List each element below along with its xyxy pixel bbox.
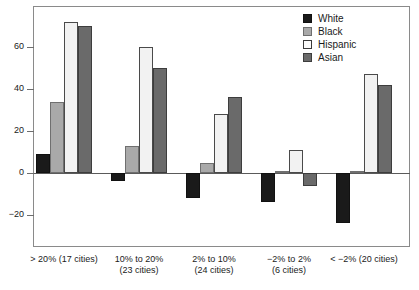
y-axis-tick-label: 60 bbox=[0, 42, 24, 51]
y-axis-tick-mark bbox=[27, 47, 34, 48]
y-axis-tick-mark bbox=[27, 173, 34, 174]
legend-item-label: Asian bbox=[318, 53, 343, 63]
legend-swatch-icon bbox=[303, 53, 312, 62]
bar bbox=[364, 74, 378, 173]
bar bbox=[378, 85, 392, 173]
legend-swatch-icon bbox=[303, 14, 312, 23]
category-label-line-2: (6 cities) bbox=[244, 265, 334, 276]
bar bbox=[36, 154, 50, 173]
bar bbox=[261, 173, 275, 202]
bar bbox=[111, 173, 125, 181]
bar bbox=[336, 173, 350, 223]
y-axis-tick-label: 20 bbox=[0, 126, 24, 135]
bar bbox=[303, 173, 317, 186]
y-axis-tick-mark bbox=[27, 215, 34, 216]
bar bbox=[139, 47, 153, 173]
legend-item: Black bbox=[303, 25, 356, 38]
zero-baseline bbox=[34, 173, 410, 174]
legend-item: Hispanic bbox=[303, 38, 356, 51]
bar bbox=[186, 173, 200, 198]
legend-item: White bbox=[303, 12, 356, 25]
bar bbox=[78, 26, 92, 173]
bar bbox=[350, 171, 364, 173]
y-axis-tick-mark bbox=[27, 89, 34, 90]
bar bbox=[228, 97, 242, 173]
category-label-line-1: < −2% (20 cities) bbox=[330, 254, 398, 264]
y-axis-tick-label: 40 bbox=[0, 84, 24, 93]
category-label-line-1: −2% to 2% bbox=[267, 254, 311, 264]
y-axis-tick-label: −20 bbox=[0, 210, 24, 219]
category-label-line-1: > 20% (17 cities) bbox=[30, 254, 97, 264]
legend-swatch-icon bbox=[303, 40, 312, 49]
legend-item-label: White bbox=[318, 14, 344, 24]
category-label-line-1: 10% to 20% bbox=[115, 254, 164, 264]
bar bbox=[50, 102, 64, 173]
bar bbox=[125, 146, 139, 173]
bar-chart: 6040200−20 > 20% (17 cities)10% to 20%(2… bbox=[0, 0, 419, 290]
bar bbox=[275, 171, 289, 173]
legend-item-label: Hispanic bbox=[318, 40, 356, 50]
bar bbox=[153, 68, 167, 173]
y-axis-tick-label: 0 bbox=[0, 168, 24, 177]
bar bbox=[289, 150, 303, 173]
x-axis-category-label: < −2% (20 cities) bbox=[319, 254, 409, 265]
legend-item-label: Black bbox=[318, 27, 342, 37]
chart-legend: WhiteBlackHispanicAsian bbox=[303, 12, 356, 64]
legend-item: Asian bbox=[303, 51, 356, 64]
category-label-line-1: 2% to 10% bbox=[192, 254, 236, 264]
bar bbox=[214, 114, 228, 173]
y-axis-tick-mark bbox=[27, 131, 34, 132]
bar bbox=[200, 163, 214, 174]
legend-swatch-icon bbox=[303, 27, 312, 36]
bar bbox=[64, 22, 78, 173]
